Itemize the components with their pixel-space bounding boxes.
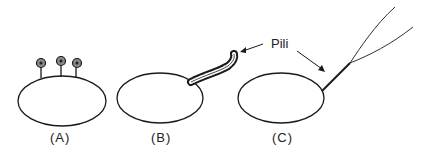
cell-c-body: [238, 73, 324, 123]
cell-a-body: [18, 76, 106, 126]
cell-a: [18, 57, 106, 127]
knob-appendage-icon: [73, 59, 82, 79]
cell-c: [238, 7, 413, 123]
diagram-canvas: [0, 0, 432, 147]
knob-appendage-icon: [37, 59, 46, 79]
arrow-to-c: [297, 51, 322, 69]
panel-a-label: (A): [50, 130, 70, 145]
panel-b-label: (B): [151, 130, 171, 145]
panel-c-label: (C): [272, 130, 293, 145]
pili-label: Pili: [271, 36, 288, 51]
knob-appendage-icon: [57, 57, 66, 78]
split-pili-icon: [322, 7, 413, 91]
cell-b: [117, 54, 234, 123]
beaded-pili-bundle-icon: [191, 54, 234, 82]
